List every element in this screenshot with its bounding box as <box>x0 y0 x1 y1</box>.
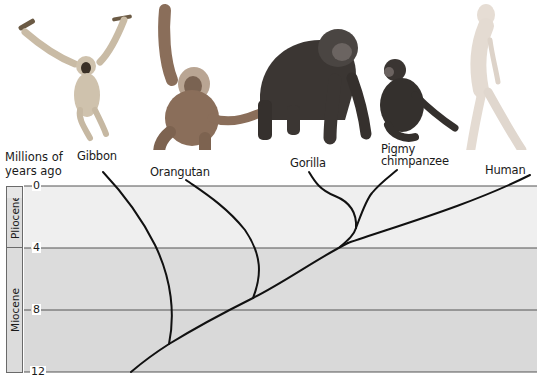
illustrations <box>0 0 537 150</box>
orangutan-illustration <box>159 10 262 150</box>
chimpanzee-illustration <box>380 59 455 138</box>
branch-human <box>348 175 530 243</box>
branch-gibbon <box>103 172 172 344</box>
gibbon-illustration <box>18 14 132 138</box>
branch-chimpanzee <box>356 170 397 228</box>
main-trunk <box>131 243 348 372</box>
human-illustration <box>470 4 522 150</box>
branch-orangutan <box>186 180 259 298</box>
branch-gorilla <box>309 172 356 228</box>
branch-gorilla-chimp-stem <box>340 228 356 247</box>
gorilla-illustration <box>258 29 366 140</box>
